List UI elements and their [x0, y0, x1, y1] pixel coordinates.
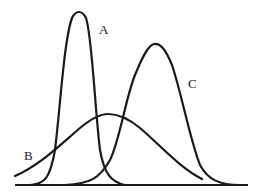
- label-c: C: [188, 76, 197, 91]
- label-b: B: [24, 148, 33, 163]
- distribution-diagram: A B C: [0, 0, 260, 195]
- label-a: A: [99, 22, 109, 37]
- curve-c: [65, 44, 240, 185]
- curve-b: [15, 114, 202, 179]
